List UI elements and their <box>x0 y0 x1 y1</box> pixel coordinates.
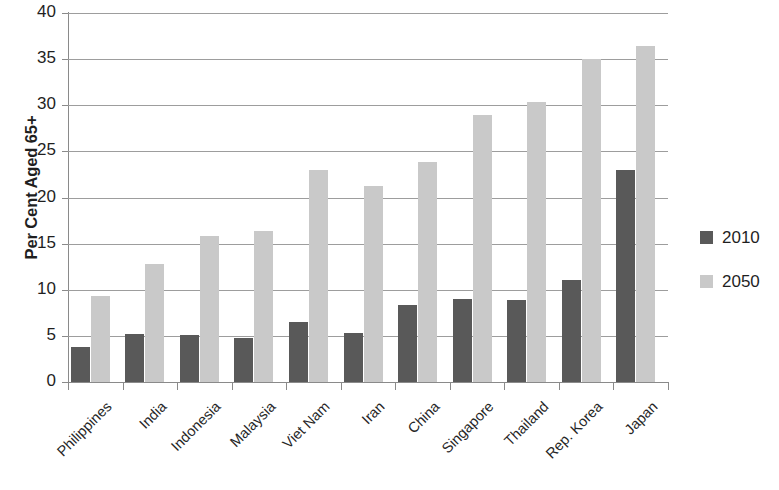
x-tick-mark <box>450 383 451 390</box>
x-tick-mark <box>504 383 505 390</box>
bar-2050-rep-korea <box>582 59 601 382</box>
y-tick-label: 15 <box>8 233 56 253</box>
bar-2010-china <box>398 305 417 382</box>
legend-label: 2050 <box>722 273 760 290</box>
y-tick-label: 35 <box>8 48 56 68</box>
x-tick-mark <box>395 383 396 390</box>
y-tick-label: 30 <box>8 94 56 114</box>
x-tick-mark <box>668 383 669 390</box>
y-tick-label: 40 <box>8 2 56 22</box>
x-tick-mark <box>286 383 287 390</box>
bar-2010-indonesia <box>180 335 199 382</box>
y-tick-label: 20 <box>8 187 56 207</box>
plot-area <box>68 13 668 382</box>
bar-2050-philippines <box>91 296 110 382</box>
bar-2050-iran <box>364 186 383 382</box>
bar-2050-thailand <box>527 102 546 382</box>
y-tick-label: 5 <box>8 325 56 345</box>
legend-swatch-icon <box>700 275 713 288</box>
bar-2010-singapore <box>453 299 472 382</box>
x-tick-mark <box>123 383 124 390</box>
bar-2050-singapore <box>473 115 492 382</box>
y-tick-label: 25 <box>8 140 56 160</box>
bar-2050-indonesia <box>200 236 219 382</box>
y-tick-label: 10 <box>8 279 56 299</box>
gridline <box>68 105 668 106</box>
legend-item-2050[interactable]: 2050 <box>700 259 760 303</box>
gridline <box>68 382 668 383</box>
x-tick-mark <box>613 383 614 390</box>
x-tick-mark <box>341 383 342 390</box>
bar-2050-india <box>145 264 164 382</box>
bar-2010-rep-korea <box>562 280 581 382</box>
bar-2010-thailand <box>507 300 526 382</box>
x-tick-mark <box>232 383 233 390</box>
bar-2050-japan <box>636 46 655 382</box>
gridline <box>68 59 668 60</box>
legend-item-2010[interactable]: 2010 <box>700 215 760 259</box>
bar-2050-china <box>418 162 437 382</box>
bar-2010-india <box>125 334 144 382</box>
legend: 20102050 <box>700 215 760 303</box>
gridline <box>68 13 668 14</box>
x-tick-mark <box>559 383 560 390</box>
bar-2010-japan <box>616 170 635 382</box>
bar-2050-malaysia <box>254 231 273 382</box>
legend-swatch-icon <box>700 231 713 244</box>
bar-2010-philippines <box>71 347 90 382</box>
y-tick-label: 0 <box>8 371 56 391</box>
bar-2010-iran <box>344 333 363 382</box>
bar-2010-viet-nam <box>289 322 308 382</box>
gridline <box>68 151 668 152</box>
bar-2010-malaysia <box>234 338 253 382</box>
x-tick-mark <box>177 383 178 390</box>
legend-label: 2010 <box>722 229 760 246</box>
bar-2050-viet-nam <box>309 170 328 382</box>
bar-chart: Per Cent Aged 65+ 4035302520151050 Phili… <box>0 0 779 490</box>
x-tick-mark <box>68 383 69 390</box>
